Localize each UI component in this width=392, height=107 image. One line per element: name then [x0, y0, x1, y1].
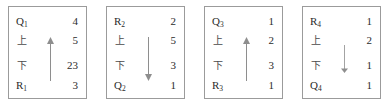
row-value: 2: [367, 30, 373, 51]
interval-panel: R41上2下1Q41: [302, 6, 381, 99]
table-row: Q31: [205, 11, 282, 32]
row-value: 1: [269, 11, 275, 32]
interval-panel: Q31上2下3R31: [204, 6, 283, 99]
row-label-subscript: 2: [121, 20, 125, 29]
row-value: 5: [73, 30, 79, 51]
arrow-up-icon: [242, 37, 251, 81]
row-label: Q2: [114, 75, 126, 97]
row-value: 2: [269, 30, 275, 51]
row-label: 上: [115, 30, 125, 51]
arrow-down-icon: [340, 45, 349, 73]
row-value: 3: [171, 55, 177, 76]
row-value: 1: [367, 75, 373, 96]
row-value: 1: [171, 75, 177, 96]
row-value: 1: [269, 75, 275, 96]
interval-panel: R22上5下3Q21: [106, 6, 185, 99]
arrow-down-icon: [144, 37, 153, 81]
row-label-subscript: 1: [24, 20, 28, 29]
row-label: 上: [17, 30, 27, 51]
row-label-subscript: 3: [220, 20, 224, 29]
row-label-subscript: 2: [122, 84, 126, 93]
row-label: 下: [115, 55, 125, 76]
arrow-up-icon: [46, 37, 55, 81]
row-label: R1: [16, 75, 27, 97]
row-value: 3: [269, 55, 275, 76]
row-label-subscript: 1: [23, 84, 27, 93]
table-row: R41: [303, 11, 380, 32]
row-label: 上: [213, 30, 223, 51]
row-value: 5: [171, 30, 177, 51]
row-label: 下: [311, 55, 321, 76]
row-value: 1: [367, 11, 373, 32]
interval-panel: Q14上5下23R13: [8, 6, 87, 99]
row-label: 上: [311, 30, 321, 51]
row-label: R3: [212, 75, 223, 97]
row-label-subscript: 4: [318, 84, 322, 93]
row-label: 下: [213, 55, 223, 76]
row-value: 2: [171, 11, 177, 32]
row-label: Q4: [310, 75, 322, 97]
four-panel-interval-diagram: Q14上5下23R13R22上5下3Q21Q31上2下3R31R41上2下1Q4…: [0, 0, 392, 107]
row-value: 3: [73, 75, 79, 96]
row-value: 4: [73, 11, 79, 32]
row-label-subscript: 3: [219, 84, 223, 93]
table-row: Q14: [9, 11, 86, 32]
row-label: 下: [17, 55, 27, 76]
row-value: 1: [367, 55, 373, 76]
row-value: 23: [67, 55, 78, 76]
table-row: Q41: [303, 75, 380, 96]
row-label-subscript: 4: [317, 20, 321, 29]
table-row: R22: [107, 11, 184, 32]
